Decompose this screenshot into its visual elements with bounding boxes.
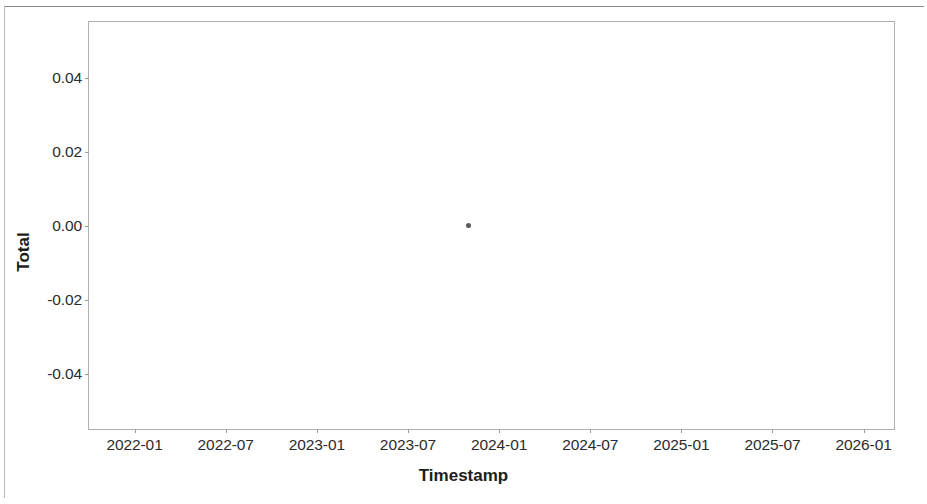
x-axis-tick bbox=[864, 429, 865, 433]
chart-figure: 0.040.020.00-0.02-0.042022-012022-072023… bbox=[0, 0, 927, 504]
x-axis-tick bbox=[317, 429, 318, 433]
x-axis-tick bbox=[772, 429, 773, 433]
x-axis-tick bbox=[226, 429, 227, 433]
y-axis-tick-label: -0.04 bbox=[47, 365, 82, 383]
x-axis-tick-label: 2022-07 bbox=[198, 436, 254, 454]
y-axis-tick bbox=[85, 78, 89, 79]
x-axis-tick-label: 2023-07 bbox=[380, 436, 436, 454]
x-axis-tick bbox=[590, 429, 591, 433]
plot-axes: 0.040.020.00-0.02-0.042022-012022-072023… bbox=[88, 21, 895, 430]
x-axis-tick bbox=[135, 429, 136, 433]
y-axis-tick-label: 0.04 bbox=[52, 69, 82, 87]
y-axis-tick bbox=[85, 152, 89, 153]
x-axis-title: Timestamp bbox=[0, 466, 927, 486]
y-axis-tick bbox=[85, 374, 89, 375]
plot-data-area bbox=[89, 22, 894, 429]
x-axis-tick-label: 2025-07 bbox=[744, 436, 800, 454]
page-edge-top-rule bbox=[4, 6, 924, 7]
x-axis-tick-label: 2024-07 bbox=[562, 436, 618, 454]
x-axis-tick-label: 2022-01 bbox=[106, 436, 162, 454]
x-axis-tick-label: 2023-01 bbox=[289, 436, 345, 454]
x-axis-tick bbox=[499, 429, 500, 433]
x-axis-tick bbox=[681, 429, 682, 433]
x-axis-tick-label: 2026-01 bbox=[836, 436, 892, 454]
y-axis-tick-label: -0.02 bbox=[47, 291, 82, 309]
y-axis-tick-label: 0.02 bbox=[52, 143, 82, 161]
y-axis-tick bbox=[85, 226, 89, 227]
page-edge-left-rule bbox=[4, 6, 5, 498]
y-axis-tick bbox=[85, 300, 89, 301]
x-axis-tick-label: 2024-01 bbox=[471, 436, 527, 454]
x-axis-tick bbox=[408, 429, 409, 433]
x-axis-tick-label: 2025-01 bbox=[653, 436, 709, 454]
y-axis-tick-label: 0.00 bbox=[52, 217, 82, 235]
data-point bbox=[466, 223, 471, 228]
y-axis-title: Total bbox=[14, 232, 34, 271]
y-axis-title-wrapper: Total bbox=[10, 0, 38, 504]
